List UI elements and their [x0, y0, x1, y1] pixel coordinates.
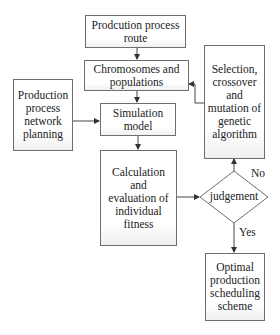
node-label: Selection, crossover and mutation of gen…: [207, 63, 262, 141]
node-genetic-operators: Selection, crossover and mutation of gen…: [204, 45, 265, 159]
node-chromosomes-populations: Chromosomes and populations: [84, 60, 189, 91]
node-label: Calculation and evaluation of individual…: [105, 166, 172, 231]
node-label: Prodcution process route: [88, 19, 183, 45]
node-fitness-evaluation: Calculation and evaluation of individual…: [100, 150, 177, 246]
node-optimal-scheme: Optimal production scheduling scheme: [205, 253, 265, 321]
edge-label-no: No: [251, 167, 265, 180]
node-label: Chromosomes and populations: [87, 63, 186, 89]
judgement-label: judgement: [205, 190, 263, 203]
node-simulation-model: Simulation model: [100, 103, 176, 136]
node-network-planning: Production process network planning: [13, 79, 73, 151]
edge-label-yes: Yes: [239, 226, 256, 239]
node-label: Optimal production scheduling scheme: [208, 261, 262, 313]
node-production-route: Prodcution process route: [85, 15, 186, 48]
node-label: Production process network planning: [16, 89, 70, 141]
arrow-genetic-to-chromosomes: [189, 84, 204, 103]
node-label: Simulation model: [103, 107, 173, 133]
